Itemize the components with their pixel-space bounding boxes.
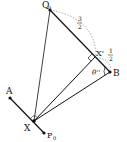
point-b xyxy=(108,70,111,73)
point-x xyxy=(32,119,36,123)
label-frac-big-den: 2 xyxy=(78,23,82,30)
segment-x-b xyxy=(34,72,110,121)
angle-arc-x xyxy=(31,116,37,118)
label-frac-big-num: 3 xyxy=(78,15,82,22)
label-theta: θ'' xyxy=(92,69,100,77)
segment-q0-x xyxy=(34,10,50,121)
label-frac-small-num: 1 xyxy=(109,47,113,54)
label-xprime: X' xyxy=(96,49,104,58)
label-frac-small-den: 2 xyxy=(109,55,113,62)
label-p-sub: 0 xyxy=(53,135,56,141)
label-b: B xyxy=(113,68,120,78)
geometry-diagram: Q 0 3 2 X' 1 2 θ'' B A X P 0 xyxy=(0,0,127,142)
angle-arc-b xyxy=(104,67,105,75)
label-q-sub: 0 xyxy=(48,5,51,11)
label-a: A xyxy=(5,86,13,96)
right-angle-marker xyxy=(88,54,92,61)
point-a xyxy=(8,96,11,99)
label-x: X xyxy=(24,123,31,133)
point-p0 xyxy=(42,131,45,134)
segment-x-xprime xyxy=(34,57,95,121)
